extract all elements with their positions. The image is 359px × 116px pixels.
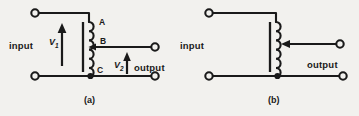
panel-a-output-terminal-top[interactable] [151,43,158,50]
panel-b-output-terminal-tap[interactable] [336,40,343,47]
panel-a-output-terminal-bottom[interactable] [151,72,158,79]
autotransformer-figure [0,0,359,116]
panel-a-v1-sub: 1 [55,42,59,49]
panel-a-v1-label: V1 [49,37,59,49]
panel-b-bottom-junction-dot [274,73,280,79]
panel-a-v2-label: V2 [114,60,124,72]
panel-b-top-input-lead [212,13,276,22]
panel-a-caption: (a) [84,95,95,105]
panel-a-v2-arrow [123,52,131,74]
panel-b-caption: (b) [268,95,280,105]
panel-a-node-label-b: B [100,36,106,46]
panel-a-top-input-lead [38,13,89,22]
panel-b-input-label: input [180,40,204,51]
panel-a-input-label: input [9,40,33,51]
panel-b-output-terminal-bottom[interactable] [339,72,346,79]
panel-a-node-c-junction-dot [87,73,93,79]
panel-b-sliding-tap-arrowhead [281,40,290,48]
panel-a-input-terminal-top[interactable] [31,9,38,16]
panel-b-winding [276,22,281,77]
panel-a-node-label-c: C [97,65,103,75]
panel-b-input-terminal-top[interactable] [205,9,212,16]
panel-a-v2-sub: 2 [120,65,124,72]
panel-a-output-label: output [134,62,165,73]
panel-b-input-terminal-bottom[interactable] [205,72,212,79]
panel-a-winding [89,22,94,77]
panel-a-node-label-a: A [99,17,105,27]
panel-b-output-label: output [307,59,338,70]
panel-a-input-terminal-bottom[interactable] [31,72,38,79]
